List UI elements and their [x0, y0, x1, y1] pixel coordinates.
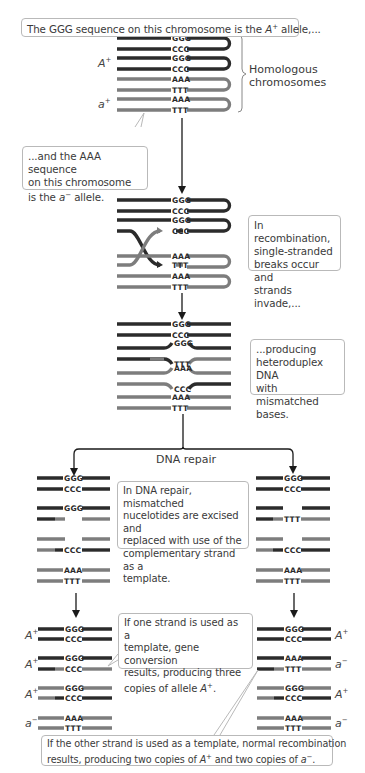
callout-line: replaced with use of the — [123, 535, 243, 548]
homologous-label: Homologous chromosomes — [249, 63, 326, 89]
callout-text: . — [213, 683, 216, 694]
allele-sup: + — [105, 97, 111, 105]
callout-heteroduplex: ...producing heteroduplex DNA with misma… — [250, 339, 345, 395]
svg-text:TTT: TTT — [172, 106, 189, 115]
allele-letter: A — [335, 688, 343, 701]
callout-line: heteroduplex DNA — [256, 356, 339, 382]
svg-text:AAA: AAA — [64, 566, 82, 575]
callout-normal-recombination: If the other strand is used as a templat… — [41, 735, 333, 766]
callout-gene-conversion: If one strand is used as a template, gen… — [118, 613, 253, 669]
svg-text:CCC: CCC — [65, 665, 83, 674]
callout-line: In DNA repair, mismatched — [123, 485, 243, 510]
final-right-allele-1: A+ — [335, 628, 348, 642]
allele-letter: a — [335, 658, 342, 671]
svg-text:GGG: GGG — [172, 320, 191, 329]
svg-text:CCC: CCC — [285, 694, 303, 703]
stage1-sequences: GGG CCC GGG CCC AAA TTT AAA TTT — [172, 34, 191, 115]
repair-right-sequences: GGG CCC TTT CCC AAA TTT — [284, 474, 303, 586]
allele-letter: a — [98, 98, 105, 111]
svg-text:AAA: AAA — [285, 654, 303, 663]
callout-line: copies of allele A+. — [124, 680, 247, 696]
homologous-brace — [238, 35, 246, 112]
callout-line: nucelotides are excised and — [123, 510, 243, 535]
svg-text:GGG: GGG — [285, 684, 304, 693]
allele-label-A-plus: A+ — [98, 56, 111, 70]
svg-text:CCC: CCC — [65, 635, 83, 644]
callout-line: template. — [123, 573, 243, 586]
final-left-sequences: GGG CCC GGG CCC GGG CCC AAA TTT — [65, 625, 84, 733]
allele-letter: A — [25, 658, 33, 671]
svg-text:TTT: TTT — [284, 577, 301, 586]
callout-text: . — [312, 754, 315, 765]
svg-text:AAA: AAA — [172, 272, 190, 281]
callout-line: is the a− allele. — [28, 189, 142, 204]
svg-text:TTT: TTT — [64, 577, 81, 586]
svg-text:TTT: TTT — [284, 515, 301, 524]
svg-text:CCC: CCC — [285, 635, 303, 644]
callout-line: results, producing two copies of A+ and … — [47, 751, 327, 767]
svg-text:TTT: TTT — [172, 404, 189, 413]
callout-dna-repair: In DNA repair, mismatched nucelotides ar… — [117, 481, 249, 549]
svg-text:AAA: AAA — [284, 566, 302, 575]
allele-sup: + — [343, 687, 349, 695]
svg-text:GGG: GGG — [172, 54, 191, 63]
callout-text: The GGG sequence on this chromosome is t… — [27, 23, 265, 35]
final-right-allele-3: A+ — [335, 687, 348, 701]
svg-text:CCC: CCC — [172, 207, 190, 216]
allele-letter: A — [25, 688, 33, 701]
svg-text:GGG: GGG — [65, 625, 84, 634]
svg-text:TTT: TTT — [172, 261, 189, 270]
dna-repair-label: DNA repair — [156, 453, 216, 466]
svg-text:CCC: CCC — [172, 45, 190, 54]
allele-letter: A — [25, 629, 33, 642]
callout-text: copies of allele — [124, 683, 200, 694]
final-left-allele-4: a− — [25, 716, 38, 730]
svg-text:AAA: AAA — [172, 252, 190, 261]
callout-text: results, producing two copies of — [47, 754, 200, 765]
svg-text:GGG: GGG — [65, 684, 84, 693]
svg-text:TTT: TTT — [285, 724, 302, 733]
svg-text:CCC: CCC — [284, 485, 302, 494]
allele-sup: + — [33, 657, 39, 665]
svg-text:CCC: CCC — [284, 546, 302, 555]
callout-text: allele,... — [278, 23, 321, 35]
svg-text:CCC: CCC — [65, 694, 83, 703]
allele-sup: + — [33, 628, 39, 636]
svg-text:GGG: GGG — [64, 504, 83, 513]
aaa-callout-pointer — [135, 113, 144, 127]
final-left-allele-2: A+ — [25, 657, 38, 671]
callout-line: with mismatched — [256, 382, 339, 408]
svg-text:GGG: GGG — [285, 625, 304, 634]
allele-letter: a — [335, 717, 342, 730]
svg-text:GGG: GGG — [284, 474, 303, 483]
stage2-sequences: GGG CCC GGG CCC AAA TTT AAA TTT — [172, 196, 191, 292]
callout-line: In recombination, — [254, 219, 335, 245]
homologous-text: Homologous — [249, 63, 326, 76]
final-right-sequences: GGG CCC AAA TTT GGG CCC AAA TTT — [285, 625, 304, 733]
callout-line: ...producing — [256, 343, 339, 356]
callout-text: is the — [28, 191, 59, 203]
allele-letter: A — [335, 629, 343, 642]
svg-text:AAA: AAA — [285, 714, 303, 723]
svg-text:GGG: GGG — [174, 339, 193, 348]
repair-left-sequences: GGG CCC GGG CCC AAA TTT — [64, 474, 83, 586]
allele-letter: a — [25, 717, 32, 730]
callout-recombination: In recombination, single-stranded breaks… — [248, 215, 341, 271]
callout-line: If the other strand is used as a templat… — [47, 738, 327, 751]
callout-line: complementary strand as a — [123, 548, 243, 573]
callout-line: on this chromosome — [28, 176, 142, 189]
callout-line: ...and the AAA sequence — [28, 150, 142, 176]
svg-text:CCC: CCC — [64, 546, 82, 555]
final-left-allele-1: A+ — [25, 628, 38, 642]
callout-aaa-allele: ...and the AAA sequence on this chromoso… — [22, 146, 148, 190]
svg-text:TTT: TTT — [172, 283, 189, 292]
svg-text:TTT: TTT — [65, 724, 82, 733]
callout-line: If one strand is used as a — [124, 617, 247, 642]
allele-label-a: a+ — [98, 97, 111, 111]
callout-line: single-stranded — [254, 245, 335, 258]
allele-sup: + — [343, 628, 349, 636]
callout-line: strands invade,... — [254, 284, 335, 310]
final-left-allele-3: A+ — [25, 687, 38, 701]
allele-sup: − — [342, 657, 348, 665]
chromosomes-text: chromosomes — [249, 76, 326, 89]
